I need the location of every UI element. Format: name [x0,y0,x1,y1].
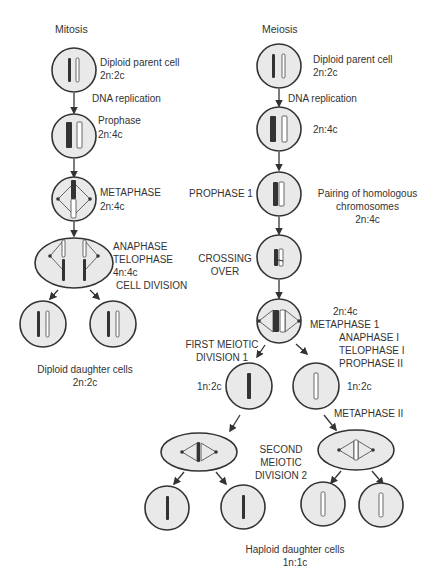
mitosis-prophase-label: Prophase [98,114,141,127]
mitosis-metaphase-cell [52,177,96,221]
meiosis-chromosomes-label: chromosomes [305,200,427,213]
meiosis-pairing-label: Pairing of homologous [305,187,427,200]
meiosis-replicated-cell [257,107,301,151]
mitosis-parent-cell [52,48,96,92]
meiosis-first-division-number: DIVISION 1 [182,351,262,364]
meiosis-crossing-over-cell [257,235,301,279]
mitosis-daughters-ploidy: 2n:2c [30,376,140,389]
meiosis-haploid-left-ploidy: 1n:2c [197,380,221,393]
meiosis-haploid-right-ploidy: 1n:2c [347,380,371,393]
meiosis-daughter-cell-1 [145,486,189,530]
cell-division-diagram [0,0,427,577]
meiosis-first-division-label: FIRST MEIOTIC [182,338,262,351]
mitosis-anaphase-ploidy: 4n:4c [113,266,137,279]
meiosis-title: Meiosis [262,23,298,36]
arrow-down-left [174,472,184,484]
mitosis-prophase-ploidy: 2n:4c [98,128,122,141]
arrow-right-daughter [90,290,99,299]
arrow-down-left [230,415,240,431]
meiosis-metaphase2-cell-left [161,433,237,471]
meiosis-metaphase2-cell-right [318,430,394,470]
mitosis-metaphase-label: METAPHASE [100,186,161,199]
meiosis-parent-ploidy: 2n:2c [313,66,337,79]
meiosis-metaphase1-label: METAPHASE 1 [310,318,379,331]
meiosis-haploid-cell-right [293,363,339,409]
arrow-left-daughter [50,290,58,299]
arrow-down-right [372,471,383,484]
meiosis-telophase1-label: TELOPHASE I [339,344,405,357]
mitosis-anaphase-label: ANAPHASE [113,240,167,253]
arrow-down-left [331,471,341,483]
meiosis-meiotic-label: MEIOTIC [251,456,311,469]
meiosis-daughters-label: Haploid daughter cells [235,543,355,556]
meiosis-replicated-ploidy: 2n:4c [313,123,337,136]
mitosis-prophase-cell [52,114,96,158]
mitosis-parent-label: Diploid parent cell [100,56,180,69]
mitosis-daughter-cell-left [20,301,66,347]
mitosis-dna-replication: DNA replication [92,92,161,105]
mitosis-metaphase-ploidy: 2n:4c [100,200,124,213]
arrow-right [296,344,307,354]
mitosis-parent-ploidy: 2n:2c [100,69,124,82]
meiosis-prophase1-ploidy: 2n:4c [305,213,427,226]
mitosis-title: Mitosis [55,23,88,36]
meiosis-parent-cell [257,44,301,88]
meiosis-prophase2-label: PROPHASE II [339,357,403,370]
mitosis-daughter-cell-right [90,301,136,347]
meiosis-haploid-cell-left [226,363,272,409]
mitosis-telophase-label: TELOPHASE [113,253,173,266]
meiosis-parent-label: Diploid parent cell [313,53,393,66]
meiosis-metaphase1-cell [257,299,301,343]
meiosis-metaphase1-ploidy: 2n:4c [333,305,357,318]
meiosis-daughters-ploidy: 1n:1c [235,556,355,569]
meiosis-crossing-label: CROSSING [195,252,255,265]
meiosis-prophase1-cell [257,172,301,216]
arrow-down-right [216,472,226,484]
meiosis-dna-replication: DNA replication [288,92,357,105]
mitosis-daughters-label: Diploid daughter cells [30,363,140,376]
mitosis-anaphase-cell [35,238,113,288]
meiosis-daughter-cell-3 [301,482,345,526]
meiosis-second-division-number: DIVISION 2 [251,469,311,482]
meiosis-metaphase2-label: METAPHASE II [334,407,403,420]
mitosis-cell-division-label: CELL DIVISION [116,279,187,292]
meiosis-second-label: SECOND [251,443,311,456]
meiosis-over-label: OVER [195,265,255,278]
meiosis-daughter-cell-2 [221,485,265,529]
meiosis-daughter-cell-4 [359,483,403,527]
meiosis-anaphase1-label: ANAPHASE I [339,331,399,344]
meiosis-prophase1-label: PROPHASE 1 [189,187,253,200]
